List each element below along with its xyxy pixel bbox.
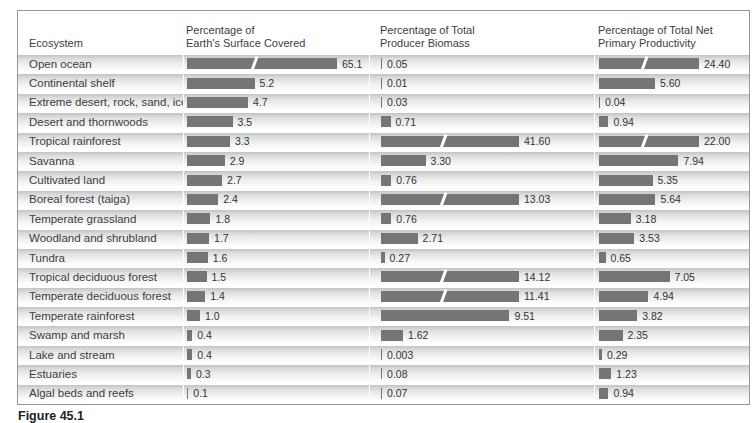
biomass-bar (381, 116, 391, 127)
surface-bar (187, 136, 230, 147)
ecosystem-label: Temperate rainforest (18, 307, 183, 324)
surface-bar (187, 194, 218, 205)
surface-bar (187, 388, 188, 399)
biomass-value: 0.08 (387, 368, 407, 380)
biomass-cell: 41.60 (369, 133, 594, 150)
table-row: Open ocean 65.1 0.05 24.40 (18, 55, 749, 74)
surface-cell: 0.3 (183, 365, 369, 382)
ecosystem-label: Tropical deciduous forest (18, 268, 183, 285)
biomass-value: 3.30 (431, 155, 451, 167)
productivity-bar (599, 330, 623, 341)
productivity-cell: 22.00 (594, 133, 749, 150)
table-row: Lake and stream 0.4 0.003 0.29 (18, 346, 749, 365)
productivity-cell: 2.35 (594, 326, 749, 343)
biomass-bar (381, 388, 382, 399)
biomass-bar (381, 194, 519, 205)
surface-value: 0.3 (196, 368, 211, 380)
productivity-value: 4.94 (653, 290, 673, 302)
header-biomass-line1: Percentage of Total (380, 24, 594, 37)
biomass-value: 1.62 (408, 329, 428, 341)
biomass-bar (381, 136, 519, 147)
biomass-value: 11.41 (524, 290, 550, 302)
surface-value: 5.2 (260, 77, 275, 89)
header-surface-line1: Percentage of (186, 24, 369, 37)
biomass-value: 0.01 (387, 77, 407, 89)
productivity-value: 3.18 (636, 213, 656, 225)
biomass-value: 41.60 (524, 135, 550, 147)
surface-cell: 1.6 (183, 249, 369, 266)
table-row: Tundra 1.6 0.27 0.65 (18, 249, 749, 268)
productivity-cell: 0.29 (594, 346, 749, 363)
surface-value: 2.9 (230, 155, 245, 167)
surface-value: 0.4 (197, 349, 212, 361)
productivity-bar (599, 213, 631, 224)
surface-cell: 5.2 (183, 74, 369, 91)
productivity-bar (599, 97, 600, 108)
ecosystem-label: Temperate deciduous forest (18, 288, 183, 305)
biomass-bar (381, 349, 382, 360)
table-row: Estuaries 0.3 0.08 1.23 (18, 365, 749, 384)
productivity-bar (599, 271, 670, 282)
biomass-value: 0.003 (387, 349, 413, 361)
productivity-bar (599, 155, 678, 166)
productivity-value: 0.65 (611, 252, 631, 264)
productivity-bar (599, 252, 606, 263)
surface-cell: 1.8 (183, 210, 369, 227)
ecosystem-label: Woodland and shrubland (18, 230, 183, 247)
biomass-cell: 0.07 (369, 385, 594, 402)
productivity-bar (599, 233, 634, 244)
ecosystem-label: Tropical rainforest (18, 133, 183, 150)
surface-bar (187, 78, 255, 89)
biomass-cell: 11.41 (369, 288, 594, 305)
productivity-cell: 5.35 (594, 171, 749, 188)
surface-cell: 65.1 (183, 55, 369, 72)
productivity-cell: 3.18 (594, 210, 749, 227)
biomass-cell: 0.71 (369, 113, 594, 130)
surface-value: 1.8 (215, 213, 230, 225)
surface-value: 1.5 (212, 271, 227, 283)
biomass-value: 14.12 (524, 271, 550, 283)
productivity-bar (599, 368, 611, 379)
table-row: Continental shelf 5.2 0.01 5.60 (18, 74, 749, 93)
productivity-bar (599, 349, 602, 360)
productivity-cell: 1.23 (594, 365, 749, 382)
productivity-cell: 5.60 (594, 74, 749, 91)
productivity-value: 3.53 (639, 232, 659, 244)
surface-bar (187, 368, 191, 379)
productivity-cell: 0.94 (594, 385, 749, 402)
ecosystem-figure-table: Ecosystem Percentage of Earth's Surface … (17, 10, 750, 405)
biomass-bar (381, 78, 382, 89)
biomass-bar (381, 58, 382, 69)
productivity-value: 0.94 (613, 387, 633, 399)
biomass-cell: 0.27 (369, 249, 594, 266)
surface-cell: 0.4 (183, 326, 369, 343)
biomass-cell: 13.03 (369, 191, 594, 208)
biomass-cell: 1.62 (369, 326, 594, 343)
table-row: Extreme desert, rock, sand, ice 4.7 0.03… (18, 94, 749, 113)
productivity-cell: 4.94 (594, 288, 749, 305)
header-producer-biomass: Percentage of Total Producer Biomass (369, 24, 594, 50)
biomass-value: 0.76 (396, 174, 416, 186)
biomass-value: 0.05 (387, 58, 407, 70)
ecosystem-label: Temperate grassland (18, 210, 183, 227)
biomass-bar (381, 252, 385, 263)
biomass-cell: 2.71 (369, 230, 594, 247)
surface-cell: 1.0 (183, 307, 369, 324)
productivity-value: 1.23 (616, 368, 636, 380)
surface-bar (187, 97, 248, 108)
table-row: Swamp and marsh 0.4 1.62 2.35 (18, 326, 749, 345)
surface-value: 1.6 (213, 252, 228, 264)
productivity-bar (599, 291, 648, 302)
table-row: Tropical rainforest 3.3 41.60 22.00 (18, 133, 749, 152)
surface-value: 0.4 (197, 329, 212, 341)
productivity-bar (599, 194, 655, 205)
surface-cell: 1.5 (183, 268, 369, 285)
surface-bar (187, 175, 222, 186)
table-rows: Open ocean 65.1 0.05 24.40 Continental s… (18, 55, 749, 404)
productivity-value: 0.94 (613, 116, 633, 128)
productivity-bar (599, 58, 699, 69)
productivity-bar (599, 388, 608, 399)
productivity-cell: 3.53 (594, 230, 749, 247)
header-primary-productivity: Percentage of Total Net Primary Producti… (594, 24, 749, 50)
biomass-bar (381, 175, 391, 186)
